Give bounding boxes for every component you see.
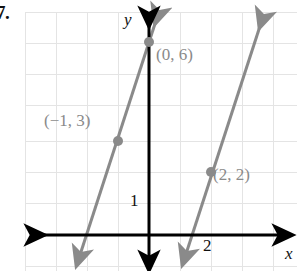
point-0-6	[144, 37, 154, 47]
tick-label-two: 2	[203, 236, 212, 256]
graph-figure: 7.	[0, 0, 297, 271]
point-m1-3	[113, 136, 123, 146]
coordinate-plane	[0, 0, 297, 271]
axis-label-x: x	[285, 244, 293, 264]
axis-label-y: y	[124, 10, 132, 30]
tick-label-one: 1	[130, 191, 139, 211]
point-label-0-6: (0, 6)	[156, 45, 193, 65]
line-right	[185, 20, 262, 257]
point-label-2-2: (2, 2)	[213, 165, 250, 185]
point-label-m1-3: (−1, 3)	[44, 111, 90, 131]
